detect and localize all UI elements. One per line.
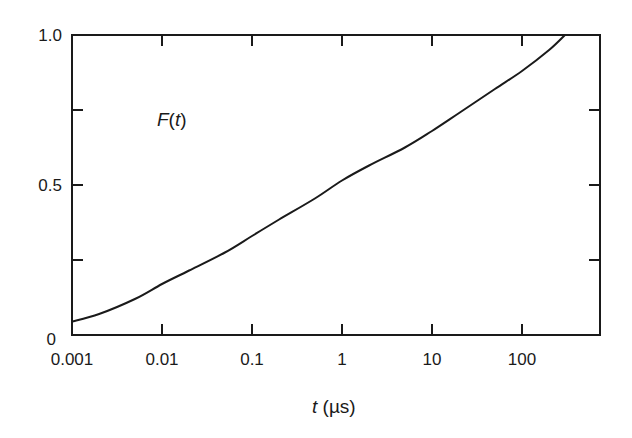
axis-tick-labels: 0.0010.010.111010000.51.0	[38, 26, 536, 369]
x-tick-label: 0.01	[145, 350, 178, 369]
x-tick-label: 0.1	[240, 350, 264, 369]
y-tick-label: 0.5	[38, 176, 62, 195]
line-chart: 0.0010.010.111010000.51.0 F(t) t (µs)	[0, 0, 632, 438]
y-tick-label: 1.0	[38, 26, 62, 45]
x-tick-label: 0.001	[51, 350, 94, 369]
x-tick-label: 1	[337, 350, 346, 369]
series-label: F(t)	[157, 109, 187, 130]
y-tick-label: 0	[47, 330, 56, 349]
x-tick-label: 10	[423, 350, 442, 369]
x-tick-label: 100	[508, 350, 536, 369]
x-axis-title: t (µs)	[312, 396, 356, 417]
series-line-F-t	[72, 35, 565, 322]
